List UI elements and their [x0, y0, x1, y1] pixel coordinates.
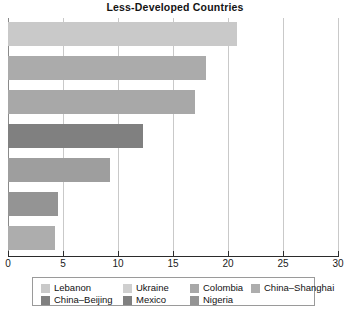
bar-lebanon	[8, 22, 237, 46]
bar-colombia	[8, 90, 195, 114]
bar-fill	[8, 158, 110, 182]
bar-ukraine	[8, 56, 206, 80]
legend-swatch-icon	[41, 296, 50, 305]
legend-swatch-icon	[41, 284, 50, 293]
x-tick-mark-0	[8, 251, 9, 257]
legend-item-mexico: Mexico	[123, 295, 166, 305]
x-tick-label-10: 10	[112, 258, 123, 269]
legend-item-label: Colombia	[203, 283, 243, 293]
legend-item-ukraine: Ukraine	[123, 283, 169, 293]
gridline-30	[338, 18, 339, 256]
legend-swatch-icon	[123, 284, 132, 293]
bar-china-beijing	[8, 124, 143, 148]
chart-title: Less-Developed Countries	[0, 1, 350, 13]
bar-chart: Less-Developed Countries 051015202530 Le…	[0, 0, 350, 313]
x-tick-mark-30	[338, 251, 339, 257]
legend-swatch-icon	[190, 296, 199, 305]
x-tick-label-5: 5	[60, 258, 66, 269]
legend-item-label: Nigeria	[203, 295, 233, 305]
legend-item-label: China–Shanghai	[264, 283, 334, 293]
legend-item-lebanon: Lebanon	[41, 283, 91, 293]
x-tick-mark-20	[228, 251, 229, 257]
bar-fill	[8, 192, 58, 216]
legend-item-label: China–Beijing	[54, 295, 113, 305]
bar-nigeria	[8, 192, 58, 216]
plot-area	[8, 18, 338, 256]
bar-fill	[8, 90, 195, 114]
gridline-15	[173, 18, 174, 256]
legend-item-label: Lebanon	[54, 283, 91, 293]
legend-swatch-icon	[123, 296, 132, 305]
gridline-20	[228, 18, 229, 256]
legend-swatch-icon	[190, 284, 199, 293]
bar-fill	[8, 22, 237, 46]
legend-swatch-icon	[251, 284, 260, 293]
legend-item-china-beijing: China–Beijing	[41, 295, 113, 305]
bar-fill	[8, 56, 206, 80]
bar-fill	[8, 226, 55, 250]
legend-item-nigeria: Nigeria	[190, 295, 233, 305]
x-tick-mark-5	[63, 251, 64, 257]
x-tick-mark-15	[173, 251, 174, 257]
legend-item-china-shanghai: China–Shanghai	[251, 283, 334, 293]
bar-fill	[8, 124, 143, 148]
x-tick-mark-25	[283, 251, 284, 257]
gridline-25	[283, 18, 284, 256]
legend-item-label: Mexico	[136, 295, 166, 305]
x-tick-label-25: 25	[277, 258, 288, 269]
x-tick-label-20: 20	[222, 258, 233, 269]
x-tick-label-15: 15	[167, 258, 178, 269]
bar-china-shanghai	[8, 226, 55, 250]
bar-mexico	[8, 158, 110, 182]
x-tick-label-30: 30	[332, 258, 343, 269]
chart-legend: LebanonUkraineColombiaChina–Shanghai Chi…	[32, 277, 315, 306]
x-tick-mark-10	[118, 251, 119, 257]
x-tick-label-0: 0	[5, 258, 11, 269]
legend-item-colombia: Colombia	[190, 283, 243, 293]
legend-item-label: Ukraine	[136, 283, 169, 293]
